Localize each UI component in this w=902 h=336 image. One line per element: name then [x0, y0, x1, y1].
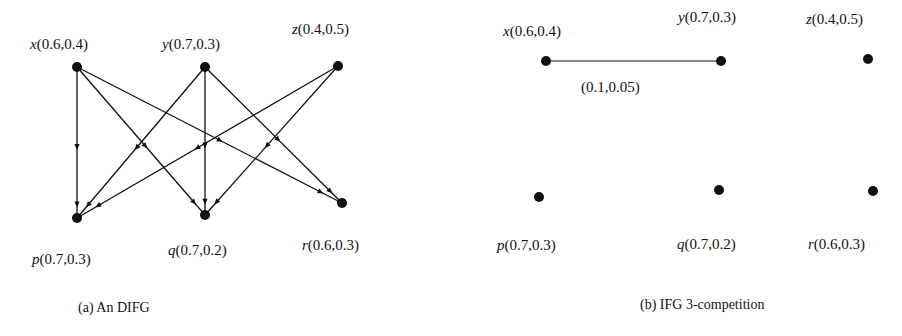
node-q	[200, 210, 210, 220]
node-name: p	[497, 237, 505, 253]
node-values: (0.7,0.2)	[685, 236, 736, 252]
node-y	[200, 62, 210, 72]
node-values: (0.6,0.4)	[37, 36, 88, 52]
node-name: x	[503, 23, 510, 39]
node-y	[716, 56, 726, 66]
node-values: (0.4,0.5)	[298, 21, 349, 37]
arrowhead-icon	[74, 201, 79, 207]
node-values: (0.7,0.3)	[685, 9, 736, 25]
competition-graph	[450, 0, 902, 336]
node-q	[714, 185, 724, 195]
node-values: (0.4,0.5)	[812, 11, 863, 27]
node-label-q: q(0.7,0.2)	[168, 243, 227, 258]
caption-a: (a) An DIFG	[78, 301, 150, 315]
node-z	[863, 54, 873, 64]
node-r	[337, 198, 347, 208]
node-label-z: z(0.4,0.5)	[806, 12, 863, 27]
node-name: y	[162, 36, 169, 52]
node-label-x: x(0.6,0.4)	[30, 37, 88, 52]
node-values: (0.7,0.3)	[505, 237, 556, 253]
node-values: (0.7,0.3)	[40, 251, 91, 267]
node-label-p: p(0.7,0.3)	[32, 252, 91, 267]
node-p	[72, 213, 82, 223]
node-values: (0.7,0.2)	[176, 242, 227, 258]
node-label-r: r(0.6,0.3)	[302, 238, 359, 253]
node-name: y	[678, 9, 685, 25]
node-x	[72, 62, 82, 72]
node-label-q: q(0.7,0.2)	[677, 237, 736, 252]
node-values: (0.6,0.3)	[814, 236, 865, 252]
node-values: (0.6,0.4)	[510, 23, 561, 39]
node-label-y: y(0.7,0.3)	[162, 37, 220, 52]
edge-label-x-y: (0.1,0.05)	[581, 80, 640, 95]
node-r	[868, 186, 878, 196]
node-values: (0.6,0.3)	[308, 237, 359, 253]
node-values: (0.7,0.3)	[169, 36, 220, 52]
node-label-x: x(0.6,0.4)	[503, 24, 561, 39]
node-name: p	[32, 251, 40, 267]
node-name: q	[168, 242, 176, 258]
node-label-r: r(0.6,0.3)	[808, 237, 865, 252]
node-p	[534, 192, 544, 202]
panel-a-difg: (a) An DIFG x(0.6,0.4)y(0.7,0.3)z(0.4,0.…	[0, 0, 450, 336]
panel-b-competition-graph: (b) IFG 3-competition (0.1,0.05)x(0.6,0.…	[450, 0, 902, 336]
node-name: q	[677, 236, 685, 252]
arrowhead-icon	[202, 199, 207, 205]
node-label-p: p(0.7,0.3)	[497, 238, 556, 253]
node-label-y: y(0.7,0.3)	[678, 10, 736, 25]
node-z	[333, 61, 343, 71]
node-name: x	[30, 36, 37, 52]
edge-z-p	[77, 66, 338, 218]
node-label-z: z(0.4,0.5)	[292, 22, 349, 37]
arrowhead-icon	[74, 144, 79, 150]
edge-y-r	[205, 67, 342, 203]
node-x	[541, 56, 551, 66]
caption-b: (b) IFG 3-competition	[640, 298, 764, 312]
